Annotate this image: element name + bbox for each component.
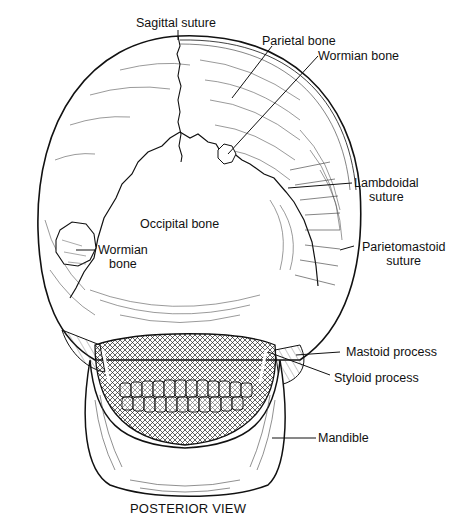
teeth [120,380,252,412]
label-mastoid-process: Mastoid process [346,345,437,359]
label-wormian-left-line2: bone [98,257,148,271]
figure-caption: POSTERIOR VIEW [130,501,246,516]
label-parietomastoid-line1: Parietomastoid [362,240,445,254]
label-parietomastoid-line2: suture [362,254,445,268]
cranium-outline [38,36,361,360]
label-wormian-bone-upper: Wormian bone [318,49,399,63]
label-mandible: Mandible [318,431,369,445]
label-parietal-bone: Parietal bone [262,34,336,48]
label-wormian-left-line1: Wormian [98,243,148,257]
label-lambdoidal-line1: Lambdoidal [354,176,419,190]
label-styloid-process: Styloid process [334,371,419,385]
label-lambdoidal-suture: Lambdoidal suture [354,176,419,204]
label-wormian-bone-left: Wormian bone [98,243,148,271]
label-parietomastoid-suture: Parietomastoid suture [362,240,445,268]
label-sagittal-suture: Sagittal suture [136,16,216,30]
label-lambdoidal-line2: suture [354,190,419,204]
label-occipital-bone: Occipital bone [140,217,219,231]
